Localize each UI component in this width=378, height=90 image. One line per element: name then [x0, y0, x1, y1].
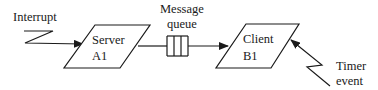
server-node: Server A1: [64, 25, 150, 68]
timer-label-line1: Timer: [336, 59, 367, 73]
server-label-line1: Server: [92, 33, 125, 47]
client-label-line2: B1: [243, 49, 258, 63]
process-diagram: Interrupt Server A1 Message queue Client…: [0, 0, 378, 90]
message-queue-label-line2: queue: [167, 17, 197, 31]
timer-label-line2: event: [336, 74, 364, 88]
interrupt-arrow: [24, 31, 83, 44]
server-label-line2: A1: [92, 49, 107, 63]
message-queue: [167, 36, 188, 56]
message-queue-label-line1: Message: [160, 2, 204, 16]
timer-event-arrow: [291, 40, 330, 86]
client-label-line1: Client: [243, 32, 274, 46]
client-node: Client B1: [216, 24, 299, 68]
interrupt-label: Interrupt: [13, 10, 57, 24]
